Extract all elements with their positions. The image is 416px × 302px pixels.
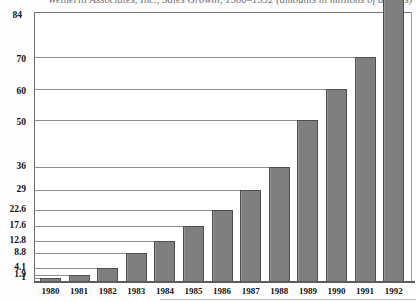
gridline-1989 bbox=[34, 120, 318, 121]
bar-1985 bbox=[183, 226, 204, 282]
chart-page: Wetherill Associates, Inc., Sales Growth… bbox=[0, 0, 416, 302]
gridline-1987 bbox=[34, 190, 261, 191]
x-tick-1987: 1987 bbox=[238, 286, 264, 296]
x-tick-1982: 1982 bbox=[95, 286, 121, 296]
gridline-1985 bbox=[34, 226, 204, 227]
gridline-1991 bbox=[34, 57, 376, 58]
x-axis-line bbox=[34, 281, 415, 283]
bar-1991 bbox=[355, 57, 376, 281]
y-tick-84: 84 bbox=[13, 11, 23, 21]
bar-1990 bbox=[326, 89, 347, 281]
y-tick-17-6: 17.6 bbox=[9, 221, 26, 231]
x-tick-1983: 1983 bbox=[123, 286, 149, 296]
gridline-1986 bbox=[34, 210, 233, 211]
bar-1987 bbox=[240, 190, 261, 282]
x-tick-1991: 1991 bbox=[352, 286, 378, 296]
x-tick-1986: 1986 bbox=[209, 286, 235, 296]
bar-1984 bbox=[154, 241, 175, 281]
x-tick-1980: 1980 bbox=[38, 286, 64, 296]
y-tick-1: 1 bbox=[21, 273, 26, 283]
bar-1992 bbox=[383, 0, 404, 281]
plot-right-edge bbox=[411, 12, 412, 282]
x-tick-1992: 1992 bbox=[381, 286, 407, 296]
x-tick-1984: 1984 bbox=[152, 286, 178, 296]
y-tick-60: 60 bbox=[17, 87, 27, 97]
bar-1983 bbox=[126, 253, 147, 281]
x-tick-1985: 1985 bbox=[181, 286, 207, 296]
chart-title: Wetherill Associates, Inc., Sales Growth… bbox=[48, 0, 412, 6]
y-tick-8-8: 8.8 bbox=[14, 248, 26, 258]
bar-1982 bbox=[97, 268, 118, 281]
bar-1986 bbox=[212, 210, 233, 281]
y-tick-12-8: 12.8 bbox=[9, 236, 26, 246]
x-tick-1990: 1990 bbox=[324, 286, 350, 296]
y-axis-tick-labels: 84706050362922.617.612.88.84.11.91 bbox=[0, 0, 31, 302]
bar-1988 bbox=[269, 167, 290, 281]
y-tick-36: 36 bbox=[17, 162, 27, 172]
x-tick-1981: 1981 bbox=[66, 286, 92, 296]
y-tick-22-6: 22.6 bbox=[9, 205, 26, 215]
x-tick-1989: 1989 bbox=[295, 286, 321, 296]
bar-1989 bbox=[297, 120, 318, 281]
gridline-1990 bbox=[34, 89, 347, 90]
y-tick-50: 50 bbox=[17, 118, 27, 128]
gridline-1988 bbox=[34, 167, 290, 168]
y-tick-29: 29 bbox=[17, 185, 27, 195]
scan-artifact-rule bbox=[160, 299, 416, 300]
x-tick-1988: 1988 bbox=[266, 286, 292, 296]
y-tick-70: 70 bbox=[17, 55, 27, 65]
